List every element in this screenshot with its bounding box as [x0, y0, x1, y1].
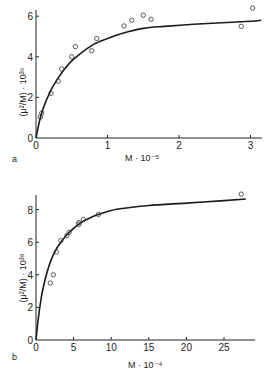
- y-tick-label: 2: [27, 92, 33, 103]
- x-tick-label: 10: [106, 342, 118, 353]
- panel-b-y-axis-label: (μ²/M) · 10³⁸: [18, 253, 28, 302]
- panel-a-x-axis-label: M · 10⁻⁵: [125, 153, 160, 163]
- panel-a-fit-curve: [36, 20, 261, 138]
- data-point: [239, 24, 243, 28]
- y-tick-label: 6: [27, 237, 33, 248]
- panel-b-x-axis-label: M · 10⁻⁴: [128, 360, 163, 370]
- panel-a-axes: 01230246: [27, 10, 262, 151]
- x-tick-label: 2: [176, 140, 182, 151]
- fit-curve-line: [36, 199, 246, 340]
- data-point: [51, 273, 55, 277]
- x-tick-label: 1: [105, 140, 111, 151]
- data-point: [149, 17, 153, 21]
- figure: 01230246 M · 10⁻⁵ (μ²/M) · 10³⁶ a 051015…: [0, 0, 269, 379]
- data-point: [73, 44, 77, 48]
- x-tick-label: 3: [248, 140, 254, 151]
- data-point: [250, 6, 254, 10]
- x-tick-label: 25: [218, 342, 230, 353]
- x-tick-label: 0: [33, 342, 39, 353]
- x-tick-label: 0: [33, 140, 39, 151]
- data-point: [60, 67, 64, 71]
- panel-a-chart: 01230246 M · 10⁻⁵ (μ²/M) · 10³⁶ a: [12, 6, 262, 164]
- y-tick-label: 4: [27, 52, 33, 63]
- data-point: [70, 55, 74, 59]
- panel-b-label: b: [12, 352, 17, 362]
- panel-b-axes: 051015202502468: [27, 195, 255, 353]
- panel-b-chart: 051015202502468 M · 10⁻⁴ (μ²/M) · 10³⁸ b: [12, 192, 255, 370]
- data-point: [130, 18, 134, 22]
- x-tick-label: 20: [181, 342, 193, 353]
- y-tick-label: 4: [27, 270, 33, 281]
- data-point: [141, 13, 145, 17]
- data-point: [239, 192, 243, 196]
- fit-curve-line: [36, 20, 261, 138]
- y-tick-label: 0: [27, 335, 33, 346]
- chart-canvas: 01230246 M · 10⁻⁵ (μ²/M) · 10³⁶ a 051015…: [0, 0, 269, 379]
- y-tick-label: 2: [27, 302, 33, 313]
- data-point: [122, 24, 126, 28]
- y-tick-label: 0: [27, 133, 33, 144]
- x-tick-label: 5: [71, 342, 77, 353]
- panel-a-label: a: [12, 154, 17, 164]
- data-point: [90, 49, 94, 53]
- data-point: [95, 36, 99, 40]
- panel-a-y-axis-label: (μ²/M) · 10³⁶: [18, 67, 28, 116]
- data-point: [48, 281, 52, 285]
- y-tick-label: 8: [27, 205, 33, 216]
- y-tick-label: 6: [27, 11, 33, 22]
- panel-b-fit-curve: [36, 199, 246, 340]
- x-tick-label: 15: [143, 342, 155, 353]
